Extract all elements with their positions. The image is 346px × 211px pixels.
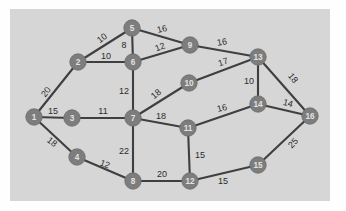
node-label: 16 [305,112,315,121]
graph-diagram-panel: 2015181010111281612121818222016171615151… [10,9,330,201]
graph-edge [190,45,258,57]
graph-svg: 2015181010111281612121818222016171615151… [10,9,330,201]
node-label: 6 [131,58,136,67]
node-label: 5 [130,24,135,33]
edge-weight-label: 15 [195,150,205,160]
node-label: 9 [188,41,193,50]
graph-node-12[interactable]: 12 [182,173,198,189]
graph-node-15[interactable]: 15 [250,157,266,173]
edge-weight-label: 16 [156,23,168,35]
graph-node-13[interactable]: 13 [250,49,266,65]
graph-node-1[interactable]: 1 [26,109,42,125]
edge-weight-label: 22 [119,146,129,156]
graph-node-5[interactable]: 5 [124,20,140,36]
edge-weight-label: 12 [98,157,111,170]
edge-weight-label: 15 [48,106,58,116]
node-label: 14 [253,100,263,109]
node-label: 3 [70,114,75,123]
graph-node-9[interactable]: 9 [182,37,198,53]
node-label: 1 [32,113,37,122]
edge-weight-label: 12 [154,41,167,54]
node-label: 7 [131,114,136,123]
edge-weight-label: 17 [217,56,230,69]
graph-node-3[interactable]: 3 [64,110,80,126]
edge-weight-label: 15 [218,176,228,186]
edge-weight-label: 18 [149,87,163,101]
edge-weight-label: 8 [121,40,126,50]
edge-weight-label: 20 [157,169,167,179]
node-label: 10 [184,79,194,88]
graph-node-2[interactable]: 2 [70,54,86,70]
edge-weight-label: 12 [119,86,129,96]
node-label: 4 [75,153,80,162]
node-label: 13 [253,53,263,62]
node-label: 15 [253,161,263,170]
graph-node-14[interactable]: 14 [250,96,266,112]
edge-weight-label: 10 [244,76,254,86]
graph-node-11[interactable]: 11 [180,120,196,136]
graph-node-6[interactable]: 6 [125,54,141,70]
node-label: 11 [184,124,193,133]
graph-node-7[interactable]: 7 [125,110,141,126]
edge-weight-label: 10 [101,51,111,61]
edge-weight-label: 18 [286,71,300,85]
edge-weight-label: 18 [156,111,166,121]
edge-weight-label: 14 [282,97,294,109]
node-label: 12 [185,177,195,186]
graph-edge [258,116,310,165]
node-label: 8 [131,177,136,186]
edge-weight-label: 16 [216,36,228,48]
graph-node-10[interactable]: 10 [181,75,197,91]
graph-node-16[interactable]: 16 [302,108,318,124]
edge-weight-label: 16 [216,102,228,114]
edge-weight-label: 11 [98,106,107,116]
node-label: 2 [76,58,81,67]
figure-root: 2015181010111281612121818222016171615151… [0,0,346,211]
nodes-layer: 12345678910111213141516 [26,20,318,189]
graph-node-4[interactable]: 4 [69,149,85,165]
graph-node-8[interactable]: 8 [125,173,141,189]
